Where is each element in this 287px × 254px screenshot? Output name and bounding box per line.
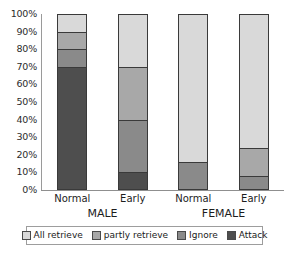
y-axis-tick-label: 80% xyxy=(16,44,37,54)
y-axis-tick-label: 50% xyxy=(16,97,37,107)
chart-legend: All retrievepartly retrieveIgnoreAttack xyxy=(26,226,263,245)
bar-segment[interactable] xyxy=(239,176,269,190)
legend-swatch-icon xyxy=(92,231,101,240)
bar-slot xyxy=(163,14,224,190)
stacked-bar-chart: 100%90%80%70%60%50%40%30%20%10%0% Normal… xyxy=(0,0,287,254)
x-axis-category-label: Normal xyxy=(42,194,103,204)
y-axis-tick-label: 70% xyxy=(16,62,37,72)
bar-segment[interactable] xyxy=(118,14,148,67)
group-labels: MALEFEMALE xyxy=(42,208,284,224)
bar-segment[interactable] xyxy=(178,162,208,190)
bar-segment[interactable] xyxy=(239,148,269,176)
bar-segment[interactable] xyxy=(118,120,148,173)
plot-area: 100%90%80%70%60%50%40%30%20%10%0% xyxy=(0,8,287,194)
legend-label: All retrieve xyxy=(34,231,83,240)
legend-item[interactable]: partly retrieve xyxy=(92,231,168,240)
legend-item[interactable]: Attack xyxy=(227,231,268,240)
x-axis-group-label: FEMALE xyxy=(163,208,284,219)
bar-slot xyxy=(42,14,103,190)
legend-item[interactable]: All retrieve xyxy=(22,231,83,240)
legend-swatch-icon xyxy=(227,231,236,240)
x-axis-category-label: Normal xyxy=(163,194,224,204)
bar-slot xyxy=(103,14,164,190)
bar-segment[interactable] xyxy=(239,14,269,148)
x-axis-line xyxy=(41,190,284,191)
bar-segment[interactable] xyxy=(57,49,87,67)
bar-slot xyxy=(224,14,285,190)
stacked-bar[interactable] xyxy=(178,14,208,190)
y-axis-tick-label: 90% xyxy=(16,27,37,37)
stacked-bar[interactable] xyxy=(57,14,87,190)
y-axis-tick-label: 30% xyxy=(16,132,37,142)
x-axis-category-label: Early xyxy=(103,194,164,204)
y-axis: 100%90%80%70%60%50%40%30%20%10%0% xyxy=(0,8,40,194)
y-axis-tick-label: 100% xyxy=(11,9,37,19)
legend-swatch-icon xyxy=(22,231,31,240)
x-axis-category-label: Early xyxy=(224,194,285,204)
bar-segment[interactable] xyxy=(178,14,208,162)
y-axis-tick-label: 60% xyxy=(16,80,37,90)
stacked-bar[interactable] xyxy=(118,14,148,190)
bars-container xyxy=(42,14,284,190)
category-labels: NormalEarlyNormalEarly xyxy=(42,194,284,208)
bar-segment[interactable] xyxy=(57,14,87,32)
stacked-bar[interactable] xyxy=(239,14,269,190)
bar-segment[interactable] xyxy=(57,67,87,190)
legend-swatch-icon xyxy=(177,231,186,240)
bar-segment[interactable] xyxy=(57,32,87,50)
y-axis-tick-label: 0% xyxy=(22,185,37,195)
legend-item[interactable]: Ignore xyxy=(177,231,218,240)
y-axis-tick-label: 20% xyxy=(16,150,37,160)
legend-label: Ignore xyxy=(189,231,218,240)
legend-label: Attack xyxy=(239,231,268,240)
y-axis-tick-label: 40% xyxy=(16,115,37,125)
y-axis-tick-label: 10% xyxy=(16,168,37,178)
x-axis-group-label: MALE xyxy=(42,208,163,219)
legend-label: partly retrieve xyxy=(104,231,168,240)
bar-segment[interactable] xyxy=(118,67,148,120)
bar-segment[interactable] xyxy=(118,172,148,190)
